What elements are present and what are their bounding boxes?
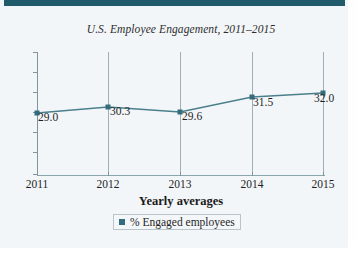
chart-title: U.S. Employee Engagement, 2011–2015: [0, 23, 362, 35]
x-axis-line: [37, 175, 325, 176]
x-axis-tick: [252, 172, 253, 176]
data-label-2013: 29.6: [182, 110, 202, 122]
x-axis-label-2013: 2013: [157, 178, 203, 190]
series-line-engaged-employees: [37, 52, 324, 175]
header-accent-bar: [4, 0, 345, 6]
x-axis-tick: [108, 172, 109, 176]
x-axis-label-2014: 2014: [229, 178, 275, 190]
x-axis-label-2011: 2011: [14, 178, 60, 190]
x-axis-label-2012: 2012: [85, 178, 131, 190]
x-axis-tick: [323, 172, 324, 176]
chart-page: U.S. Employee Engagement, 2011–2015 29.0…: [0, 0, 362, 254]
data-label-2011: 29.0: [38, 111, 58, 123]
x-axis-title: Yearly averages: [0, 194, 362, 209]
plot-area: [37, 52, 324, 175]
legend-swatch-icon: [119, 219, 125, 225]
x-axis-tick: [180, 172, 181, 176]
x-axis-tick: [37, 172, 38, 176]
legend-item-label: % Engaged employees: [130, 216, 235, 228]
data-label-2012: 30.3: [110, 105, 130, 117]
data-label-2015: 32.0: [314, 92, 334, 104]
chart-legend: % Engaged employees: [113, 214, 241, 230]
x-axis-label-2015: 2015: [300, 178, 346, 190]
data-label-2014: 31.5: [253, 96, 273, 108]
